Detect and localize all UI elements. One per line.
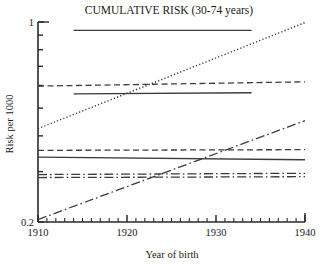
chart-title: CUMULATIVE RISK (30-74 years) [85,4,253,17]
x-tick-label-1940: 1940 [295,227,316,238]
cumulative-risk-line-chart: CUMULATIVE RISK (30-74 years) 1910192019… [0,0,323,264]
x-tick-label-1930: 1930 [206,227,227,238]
chart-figure: CUMULATIVE RISK (30-74 years) 1910192019… [0,0,323,264]
y-tick-label-1: 1 [29,17,34,28]
x-tick-label-1910: 1910 [28,227,49,238]
y-tick-label-0.2: 0.2 [21,217,34,228]
x-axis-label: Year of birth [145,249,199,260]
x-tick-label-1920: 1920 [117,227,138,238]
y-axis-label: Risk per 1000 [4,95,15,154]
